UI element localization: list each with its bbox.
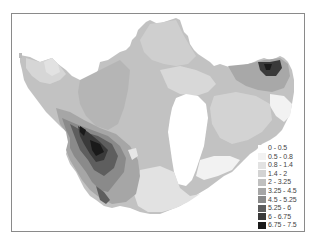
legend-swatch [258,188,266,195]
legend-swatch [258,213,266,220]
legend-item: 3.25 - 4.5 [258,187,297,195]
legend-label: 0 - 0.5 [268,144,287,152]
map-regions [19,18,294,214]
legend-item: 0.8 - 1.4 [258,161,293,169]
region-nw-island [19,53,22,58]
legend-label: 4.5 - 5.25 [268,196,297,204]
legend-label: 6 - 6.75 [268,213,291,221]
legend-swatch [258,162,266,169]
legend-swatch [258,170,266,177]
legend-label: 2 - 3.25 [268,178,291,186]
legend-label: 5.25 - 6 [268,204,291,212]
legend-swatch [258,196,266,203]
legend-label: 3.25 - 4.5 [268,187,297,195]
legend-item: 2 - 3.25 [258,178,291,186]
legend-swatch [258,179,266,186]
legend-swatch [258,145,266,152]
legend-label: 0.5 - 0.8 [268,153,293,161]
legend-item: 4.5 - 5.25 [258,196,297,204]
legend-item: 0.5 - 0.8 [258,153,293,161]
legend-item: 1.4 - 2 [258,170,287,178]
legend-swatch [258,205,266,212]
legend-item: 6.75 - 7.5 [258,221,297,229]
legend-label: 1.4 - 2 [268,170,287,178]
legend-label: 0.8 - 1.4 [268,161,293,169]
legend-label: 6.75 - 7.5 [268,221,297,229]
legend-item: 0 - 0.5 [258,144,287,152]
legend-swatch [258,153,266,160]
legend-swatch [258,222,266,229]
legend-item: 5.25 - 6 [258,204,291,212]
legend-item: 6 - 6.75 [258,213,291,221]
